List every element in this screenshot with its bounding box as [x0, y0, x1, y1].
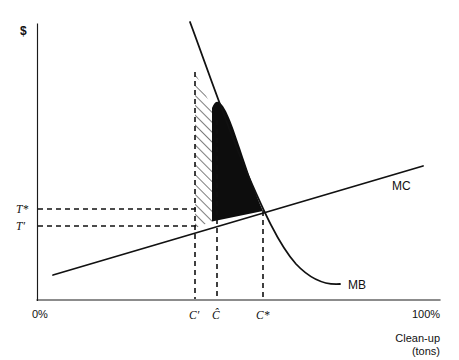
y-tick-label-t-star: T* [16, 203, 28, 215]
x-tick-label-c-star: C* [256, 309, 270, 321]
x-axis-end-label: 100% [412, 308, 440, 320]
x-axis-origin-label: 0% [32, 308, 48, 320]
x-tick-label-c-hat: Ĉ [212, 308, 220, 321]
mb-curve-label: MB [348, 278, 366, 292]
y-tick-label-t-prime: T′ [16, 220, 25, 232]
hatched-deadweight-region [195, 72, 212, 228]
black-deadweight-region [212, 102, 263, 222]
y-axis-label: $ [20, 24, 27, 38]
x-axis-title-line2: (tons) [412, 345, 440, 357]
clean-up-marginal-benefit-cost-diagram: $ T* T′ C′ Ĉ C* MC MB 0% 100% Clean-up (… [0, 0, 459, 360]
chart-canvas: $ T* T′ C′ Ĉ C* MC MB 0% 100% Clean-up (… [0, 0, 459, 360]
mc-curve-label: MC [392, 179, 411, 193]
x-tick-label-c-prime: C′ [189, 309, 200, 321]
x-axis-title-line1: Clean-up [395, 332, 440, 344]
